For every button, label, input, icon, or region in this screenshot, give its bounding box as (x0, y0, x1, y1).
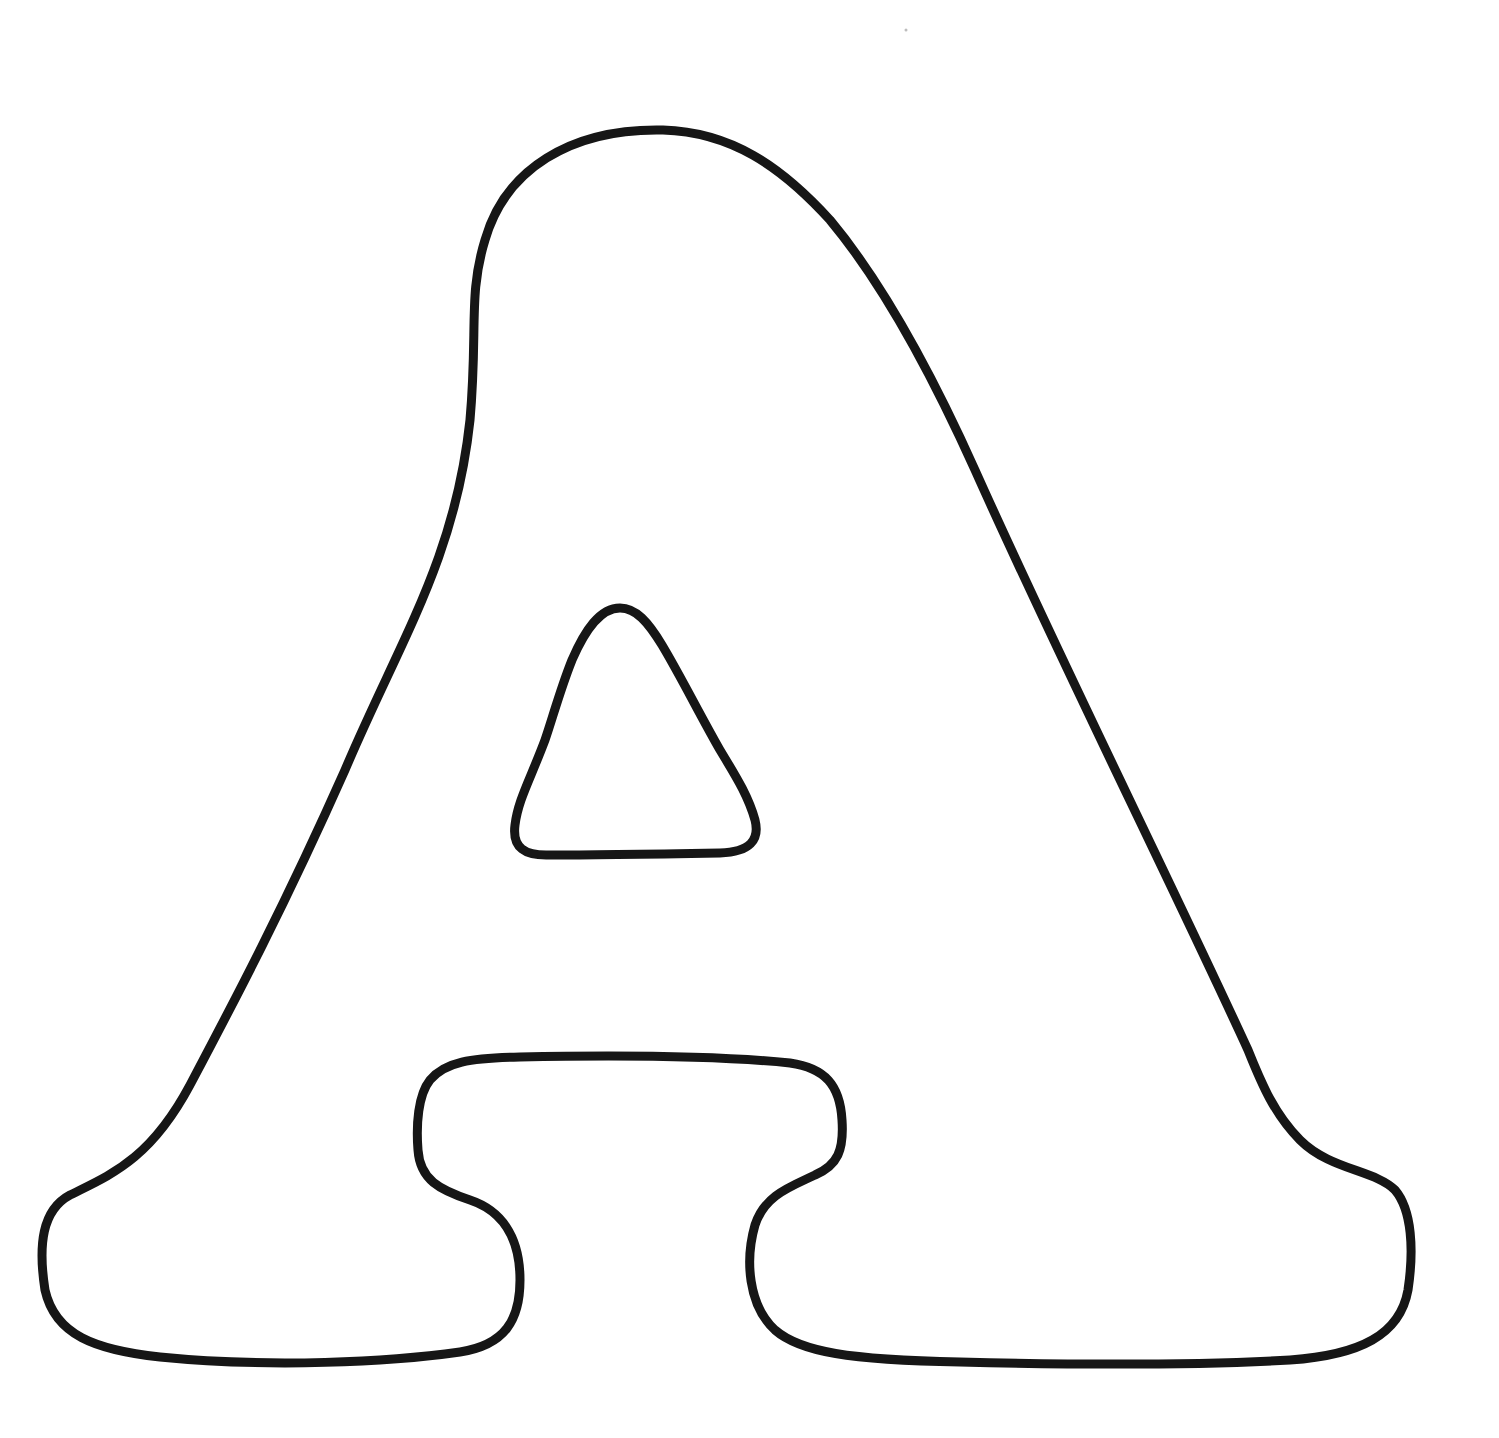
letter-a-drawing (0, 0, 1499, 1438)
letter-a-outer-outline (42, 130, 1411, 1364)
scan-speck (905, 29, 908, 32)
coloring-page: A (0, 0, 1499, 1438)
